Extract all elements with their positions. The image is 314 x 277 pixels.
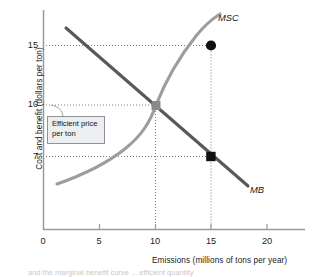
mb-curve-label: MB	[250, 184, 264, 195]
callout-leader-line	[51, 105, 63, 116]
mb-point-marker	[206, 152, 215, 161]
x-tick-label-15: 15	[201, 236, 221, 246]
x-axis-title: Emissions (millions of tons per year)	[152, 256, 287, 265]
callout-line-1: Efficient price	[52, 119, 101, 129]
x-tick-label-5: 5	[89, 236, 109, 246]
x-tick-label-20: 20	[257, 236, 277, 246]
efficient-equilibrium-marker	[152, 101, 161, 110]
y-tick-label-7: 7	[14, 151, 38, 161]
y-tick-label-15: 15	[14, 40, 38, 50]
efficient-price-callout: Efficient price per ton	[47, 116, 105, 144]
y-tick-label-10: 10	[14, 99, 38, 109]
msc-curve-label: MSC	[218, 12, 239, 23]
x-tick-label-10: 10	[145, 236, 165, 246]
page-caption-fragment: and the marginal benefit curve ... effic…	[28, 268, 314, 277]
msc-point-marker	[206, 40, 216, 50]
callout-line-2: per ton	[52, 129, 101, 139]
x-tick-label-0: 0	[33, 236, 53, 246]
